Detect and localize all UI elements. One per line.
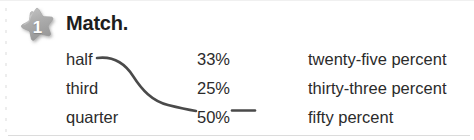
star-badge-icon: 1: [16, 7, 58, 47]
page-bottom-rule: [8, 135, 470, 136]
list-item[interactable]: 33%: [197, 45, 230, 74]
list-item[interactable]: twenty-five percent: [308, 45, 446, 74]
terms-column: half third quarter: [66, 45, 118, 132]
list-item[interactable]: thirty-three percent: [308, 74, 446, 103]
list-item[interactable]: fifty percent: [308, 103, 446, 132]
exercise-number: 1: [16, 7, 58, 47]
page-title: Match.: [66, 12, 128, 35]
match-exercise-card: 1 Match. half third quarter 33% 25% 50% …: [0, 0, 474, 140]
list-item[interactable]: 50%: [197, 103, 230, 132]
words-column: twenty-five percent thirty-three percent…: [308, 45, 446, 132]
page-top-edge: [0, 0, 474, 1]
list-item[interactable]: half: [66, 45, 118, 74]
list-item[interactable]: 25%: [197, 74, 230, 103]
list-item[interactable]: third: [66, 74, 118, 103]
page-left-perforation: [5, 8, 7, 132]
values-column: 33% 25% 50%: [197, 45, 230, 132]
list-item[interactable]: quarter: [66, 103, 118, 132]
